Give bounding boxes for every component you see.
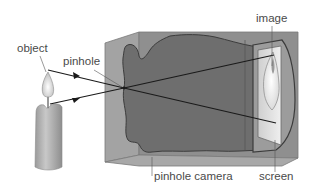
ray-bottom-arrow-icon <box>72 98 80 103</box>
label-pinhole: pinhole <box>63 56 100 68</box>
pinhole-icon <box>123 87 126 90</box>
pinhole-camera-diagram <box>0 0 314 191</box>
label-image: image <box>256 13 287 25</box>
candle-body <box>35 104 62 170</box>
ray-top-arrow-icon <box>73 72 80 79</box>
label-screen: screen <box>259 171 294 183</box>
camera-box <box>105 32 298 166</box>
label-object: object <box>17 43 48 55</box>
leader-object <box>40 56 46 72</box>
candle <box>35 72 62 170</box>
candle-flame <box>42 72 53 97</box>
label-pinhole-camera: pinhole camera <box>154 171 233 183</box>
